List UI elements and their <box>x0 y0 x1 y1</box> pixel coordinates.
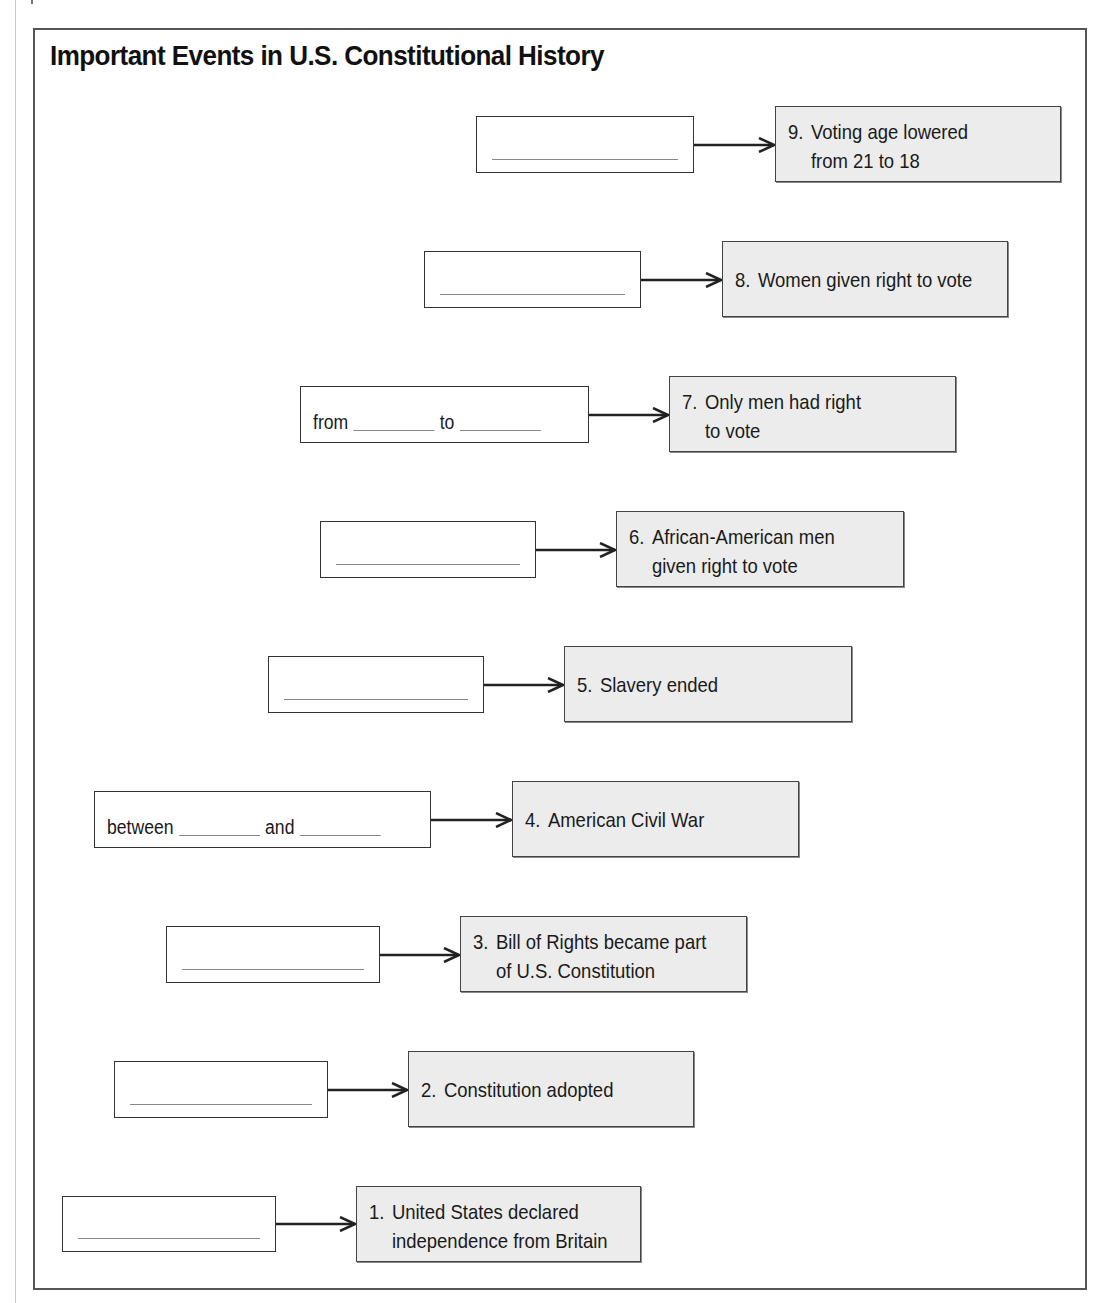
event-label-line1: Constitution adopted <box>444 1078 614 1101</box>
event-number: 2. <box>421 1075 444 1104</box>
arrow-right-icon <box>694 137 775 153</box>
event-label-line1: Women given right to vote <box>758 268 972 291</box>
event-number: 7. <box>682 387 705 416</box>
page-margin-line <box>15 0 16 1303</box>
arrow-right-icon <box>431 812 512 828</box>
arrow-right-icon <box>536 542 616 558</box>
range-middle: and <box>265 816 294 838</box>
arrow-right-icon <box>380 947 460 963</box>
event-text: 9.Voting age loweredfrom 21 to 18 <box>788 117 968 175</box>
event-label-line1: American Civil War <box>548 808 704 831</box>
event-number: 5. <box>577 670 600 699</box>
answer-box[interactable] <box>320 521 536 578</box>
event-number: 6. <box>629 522 652 551</box>
event-box: 5.Slavery ended <box>564 646 852 722</box>
event-box: 2.Constitution adopted <box>408 1051 694 1127</box>
event-text: 2.Constitution adopted <box>421 1075 613 1104</box>
event-box: 4.American Civil War <box>512 781 799 857</box>
event-box: 7.Only men had rightto vote <box>669 376 956 452</box>
answer-box[interactable] <box>476 116 694 173</box>
event-label-line2: independence from Britain <box>369 1226 608 1255</box>
event-text: 1.United States declaredindependence fro… <box>369 1197 608 1255</box>
answer-blank-line[interactable] <box>336 564 520 565</box>
arrow-right-icon <box>328 1082 408 1098</box>
event-label-line2: given right to vote <box>629 551 835 580</box>
answer-blank-line[interactable] <box>130 1104 312 1105</box>
event-number: 4. <box>525 805 548 834</box>
event-text: 6.African-American mengiven right to vot… <box>629 522 835 580</box>
answer-blank-line[interactable] <box>78 1238 260 1239</box>
event-label-line1: Slavery ended <box>600 673 718 696</box>
answer-blank-line[interactable] <box>440 294 625 295</box>
event-box: 9.Voting age loweredfrom 21 to 18 <box>775 106 1061 182</box>
event-text: 5.Slavery ended <box>577 670 718 699</box>
event-number: 8. <box>735 265 758 294</box>
event-text: 4.American Civil War <box>525 805 704 834</box>
answer-box[interactable] <box>114 1061 328 1118</box>
answer-blank-end[interactable] <box>300 835 381 836</box>
range-prefix: between <box>107 816 174 838</box>
event-box: 1.United States declaredindependence fro… <box>356 1186 641 1262</box>
event-text: 8.Women given right to vote <box>735 265 972 294</box>
event-label-line1: Voting age lowered <box>811 120 968 143</box>
answer-box[interactable] <box>62 1196 276 1252</box>
event-box: 6.African-American mengiven right to vot… <box>616 511 904 587</box>
answer-box[interactable]: betweenand <box>94 791 431 848</box>
answer-box[interactable] <box>166 926 380 983</box>
worksheet-title: Important Events in U.S. Constitutional … <box>50 40 604 72</box>
arrow-right-icon <box>484 677 564 693</box>
answer-blank-start[interactable] <box>353 430 434 431</box>
range-prefix: from <box>313 411 348 433</box>
event-number: 3. <box>473 927 496 956</box>
range-middle: to <box>440 411 455 433</box>
answer-box[interactable] <box>268 656 484 713</box>
arrow-right-icon <box>641 272 722 288</box>
event-box: 3.Bill of Rights became partof U.S. Cons… <box>460 916 747 992</box>
event-label-line1: Bill of Rights became part <box>496 930 707 953</box>
event-label-line2: to vote <box>682 416 861 445</box>
answer-box[interactable]: fromto <box>300 386 589 443</box>
event-label-line1: United States declared <box>392 1200 579 1223</box>
event-label-line1: Only men had right <box>705 390 861 413</box>
answer-blank-start[interactable] <box>179 835 260 836</box>
event-number: 1. <box>369 1197 392 1226</box>
arrow-right-icon <box>589 407 669 423</box>
answer-blank-line[interactable] <box>284 699 468 700</box>
date-range-text: fromto <box>313 411 546 434</box>
answer-blank-line[interactable] <box>182 969 364 970</box>
date-range-text: betweenand <box>107 816 386 839</box>
event-box: 8.Women given right to vote <box>722 241 1008 317</box>
arrow-right-icon <box>276 1216 356 1232</box>
event-label-line1: African-American men <box>652 525 835 548</box>
answer-blank-end[interactable] <box>460 430 541 431</box>
page-corner-mark <box>31 0 33 4</box>
event-text: 3.Bill of Rights became partof U.S. Cons… <box>473 927 706 985</box>
answer-box[interactable] <box>424 251 641 308</box>
event-label-line2: of U.S. Constitution <box>473 956 706 985</box>
event-number: 9. <box>788 117 811 146</box>
answer-blank-line[interactable] <box>492 159 678 160</box>
event-label-line2: from 21 to 18 <box>788 146 968 175</box>
event-text: 7.Only men had rightto vote <box>682 387 861 445</box>
